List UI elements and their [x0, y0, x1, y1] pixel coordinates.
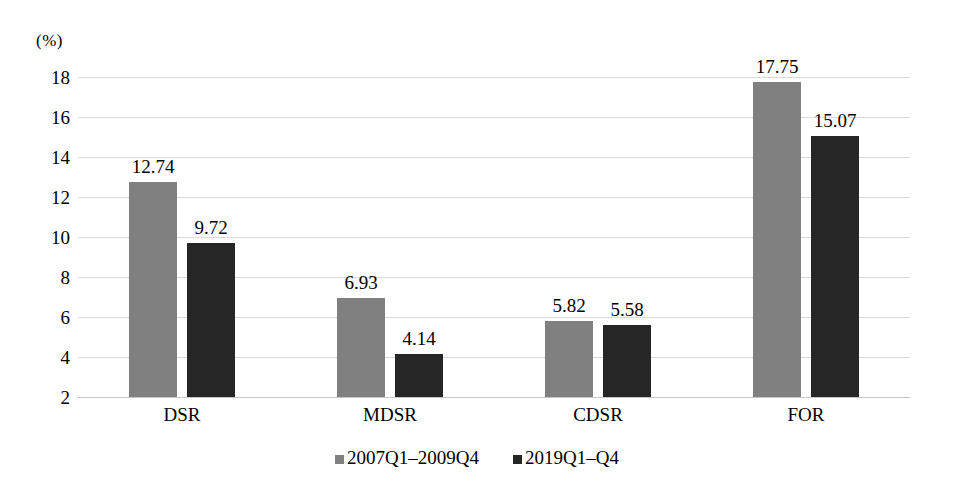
bar-cdsr-series-a	[545, 321, 593, 397]
y-axis-unit-label: (%)	[36, 30, 63, 52]
bar-chart: (%) 18161412108642 12.749.726.934.145.82…	[0, 0, 954, 498]
y-axis-tick-label: 8	[30, 268, 70, 287]
bar-for-series-a	[753, 82, 801, 397]
y-axis-tick-label: 2	[30, 388, 70, 407]
x-axis-label-mdsr: MDSR	[286, 404, 494, 426]
y-axis-tick-label: 4	[30, 348, 70, 367]
legend-item-label: 2019Q1–Q4	[525, 447, 619, 469]
bar-value-label: 9.72	[175, 218, 247, 237]
bar-mdsr-series-b	[395, 354, 443, 397]
bar-for-series-b	[811, 136, 859, 397]
y-axis-tick-label: 16	[30, 108, 70, 127]
bar-value-label: 4.14	[383, 329, 455, 348]
y-axis-tick-label: 6	[30, 308, 70, 327]
bar-dsr-series-a	[129, 182, 177, 397]
y-axis-tick-label: 18	[30, 68, 70, 87]
y-axis-tick-label: 10	[30, 228, 70, 247]
bar-cdsr-series-b	[603, 325, 651, 397]
gridline	[78, 397, 910, 398]
bar-value-label: 6.93	[325, 273, 397, 292]
bar-value-label: 12.74	[117, 157, 189, 176]
legend-swatch-icon	[513, 455, 522, 464]
gridline	[78, 77, 910, 78]
legend-swatch-icon	[335, 455, 344, 464]
legend-item-series-b[interactable]: 2019Q1–Q4	[513, 447, 619, 469]
chart-legend: 2007Q1–2009Q42019Q1–Q4	[0, 447, 954, 469]
x-axis-label-dsr: DSR	[78, 404, 286, 426]
legend-item-label: 2007Q1–2009Q4	[347, 447, 479, 469]
bar-mdsr-series-a	[337, 298, 385, 397]
bar-dsr-series-b	[187, 243, 235, 397]
plot-area: 12.749.726.934.145.825.5817.7515.07	[78, 77, 910, 397]
y-axis-tick-label: 14	[30, 148, 70, 167]
x-axis-label-cdsr: CDSR	[494, 404, 702, 426]
legend-item-series-a[interactable]: 2007Q1–2009Q4	[335, 447, 479, 469]
x-axis-label-for: FOR	[702, 404, 910, 426]
bar-value-label: 17.75	[741, 57, 813, 76]
bar-value-label: 15.07	[799, 111, 871, 130]
y-axis-tick-label: 12	[30, 188, 70, 207]
bar-value-label: 5.58	[591, 300, 663, 319]
